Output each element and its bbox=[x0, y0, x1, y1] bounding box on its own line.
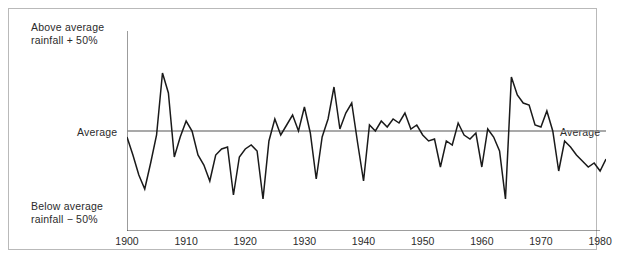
y-axis-bottom-label: Below average rainfall − 50% bbox=[31, 200, 103, 226]
average-label-left: Average bbox=[77, 126, 117, 139]
x-axis-tick-label: 1920 bbox=[225, 235, 265, 247]
x-axis-tick-label: 1980 bbox=[580, 235, 617, 247]
x-axis-tick-label: 1960 bbox=[462, 235, 502, 247]
x-axis-tick-label: 1970 bbox=[521, 235, 561, 247]
y-axis-top-label: Above average rainfall + 50% bbox=[31, 21, 104, 47]
x-axis-tick-label: 1900 bbox=[107, 235, 147, 247]
plot-area bbox=[127, 31, 606, 231]
chart-figure: Above average rainfall + 50% Below avera… bbox=[8, 8, 597, 250]
data-line-rainfall bbox=[127, 73, 606, 199]
x-axis-tick-label: 1940 bbox=[344, 235, 384, 247]
rainfall-line-chart bbox=[127, 31, 606, 231]
x-axis-tick-label: 1950 bbox=[403, 235, 443, 247]
x-axis-tick-label: 1910 bbox=[166, 235, 206, 247]
x-axis-tick-label: 1930 bbox=[284, 235, 324, 247]
